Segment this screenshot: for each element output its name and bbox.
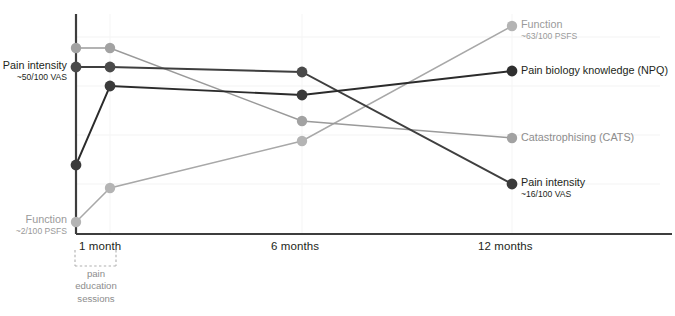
function-end-value: ~63/100 PSFS xyxy=(521,31,577,41)
series-label-pain-intensity-start: Pain intensity ~50/100 VAS xyxy=(0,59,67,82)
series-label-catastrophising-end: Catastrophising (CATS) xyxy=(521,131,634,144)
horizontal-gridlines xyxy=(76,37,660,184)
x-tick-1-month-text: 1 month xyxy=(79,240,121,252)
series-function xyxy=(71,21,517,227)
x-tick-6-months: 6 months xyxy=(271,240,319,254)
series-label-npq-end: Pain biology knowledge (NPQ) xyxy=(521,64,668,77)
pain-intensity-start-name: Pain intensity xyxy=(0,59,67,72)
series-label-function-start: Function ~2/100 PSFS xyxy=(0,213,67,236)
series-pain-intensity xyxy=(71,62,518,190)
line-chart: Pain intensity ~50/100 VAS Function ~2/1… xyxy=(0,0,675,316)
npq-end-name: Pain biology knowledge (NPQ) xyxy=(521,64,668,77)
x-tick-12-months: 12 months xyxy=(478,240,533,254)
x-tick-12-months-text: 12 months xyxy=(478,240,533,252)
series-label-function-end: Function ~63/100 PSFS xyxy=(521,18,577,41)
x-tick-1-month: 1 month xyxy=(79,240,121,254)
annotation-line-1: pain xyxy=(56,268,136,280)
x-tick-6-months-text: 6 months xyxy=(271,240,319,252)
annotation-line-2: education xyxy=(56,280,136,292)
function-start-value: ~2/100 PSFS xyxy=(0,226,67,236)
series-catastrophising xyxy=(71,43,517,143)
pain-intensity-end-value: ~16/100 VAS xyxy=(521,189,585,199)
pain-intensity-end-name: Pain intensity xyxy=(521,176,585,189)
series-label-pain-intensity-end: Pain intensity ~16/100 VAS xyxy=(521,176,585,199)
function-end-name: Function xyxy=(521,18,577,31)
function-start-name: Function xyxy=(0,213,67,226)
catastrophising-end-name: Catastrophising (CATS) xyxy=(521,131,634,144)
pain-intensity-start-value: ~50/100 VAS xyxy=(0,72,67,82)
vertical-gridlines xyxy=(110,14,512,233)
pain-education-sessions-annotation: pain education sessions xyxy=(56,268,136,305)
annotation-line-3: sessions xyxy=(56,293,136,305)
